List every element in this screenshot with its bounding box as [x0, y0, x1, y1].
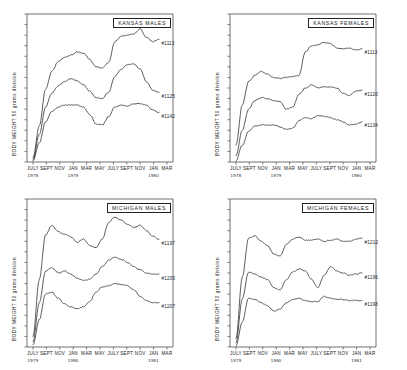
x-axis-tick-label: JAN: [149, 351, 158, 356]
x-axis-year-label: 1981: [148, 358, 159, 363]
x-axis-tick-label: JULY: [107, 351, 119, 356]
x-axis-tick-label: NOV: [338, 351, 349, 356]
x-axis-tick-label: JULY: [230, 166, 242, 171]
series-line: [33, 257, 159, 342]
x-axis-tick-label: JULY: [27, 166, 39, 171]
y-axis-label: BODY WEIGHT 50 grams division: [215, 257, 220, 341]
x-axis-year-label: 1980: [351, 173, 362, 178]
x-axis-tick-label: MAR: [284, 166, 295, 171]
y-axis-label: BODY WEIGHT 50 grams division: [12, 72, 17, 156]
x-axis-tick-label: JAN: [149, 166, 158, 171]
x-axis-tick-label: SEPT: [40, 166, 53, 171]
figure-container: #1113#1125#1142KANSAS MALESBODY WEIGHT 5…: [0, 0, 407, 370]
series-line: [236, 296, 362, 346]
x-axis-tick-label: NOV: [338, 166, 349, 171]
plot-area: [203, 0, 406, 185]
x-axis-tick-label: JAN: [352, 166, 361, 171]
chart-panel-bottom-right: #1212#1196#1198MICHIGAN FEMALESBODY WEIG…: [203, 185, 406, 370]
x-axis-tick-label: NOV: [257, 166, 268, 171]
chart-panel-top-left: #1113#1125#1142KANSAS MALESBODY WEIGHT 5…: [0, 0, 203, 185]
x-axis-tick-label: MAR: [162, 351, 173, 356]
x-axis-tick-label: MAR: [365, 351, 376, 356]
x-axis-tick-label: MAY: [95, 166, 105, 171]
x-axis-year-label: 1980: [271, 358, 282, 363]
panel-title: MICHIGAN MALES: [107, 203, 171, 213]
x-axis-year-label: 1979: [271, 173, 282, 178]
chart-panel-top-right: #1113#1120#1134KANSAS FEMALESBODY WEIGHT…: [203, 0, 406, 185]
series-line: [236, 236, 362, 339]
x-axis-year-label: 1979: [68, 173, 79, 178]
x-axis-tick-label: SEPT: [243, 166, 256, 171]
x-axis-tick-label: MAY: [298, 351, 308, 356]
panel-title: KANSAS FEMALES: [308, 18, 374, 28]
x-axis-tick-label: JULY: [310, 351, 322, 356]
series-line: [33, 103, 159, 160]
x-axis-year-label: 1978: [28, 173, 39, 178]
axis-frame: [27, 199, 173, 347]
chart-panel-inner: #1197#1205#1207MICHIGAN MALESBODY WEIGHT…: [0, 185, 203, 370]
y-axis-label: BODY WEIGHT 50 grams division: [12, 257, 17, 341]
x-axis-year-label: 1980: [148, 173, 159, 178]
y-axis-label: BODY WEIGHT 50 grams division: [215, 72, 220, 156]
plot-area: [0, 185, 203, 370]
panel-title: MICHIGAN FEMALES: [302, 203, 374, 213]
x-axis-tick-label: JULY: [107, 166, 119, 171]
panel-title: KANSAS MALES: [113, 18, 171, 28]
x-axis-year-label: 1979: [231, 358, 242, 363]
x-axis-tick-label: SEPT: [120, 351, 133, 356]
x-axis-tick-label: MAR: [284, 351, 295, 356]
series-line: [33, 283, 159, 345]
x-axis-tick-label: JAN: [68, 166, 77, 171]
chart-panel-inner: #1113#1120#1134KANSAS FEMALESBODY WEIGHT…: [203, 0, 406, 185]
x-axis-tick-label: JULY: [27, 351, 39, 356]
x-axis-year-label: 1978: [231, 173, 242, 178]
x-axis-tick-label: MAR: [81, 351, 92, 356]
x-axis-year-label: 1981: [351, 358, 362, 363]
x-axis-tick-label: SEPT: [120, 166, 133, 171]
series-line: [33, 217, 159, 336]
series-line: [236, 85, 362, 156]
axis-frame: [230, 14, 376, 162]
plot-area: [0, 0, 203, 185]
x-axis-tick-label: SEPT: [323, 166, 336, 171]
x-axis-tick-label: MAR: [81, 166, 92, 171]
x-axis-year-label: 1979: [28, 358, 39, 363]
x-axis-tick-label: NOV: [54, 351, 65, 356]
series-line: [236, 115, 362, 161]
x-axis-tick-label: MAR: [162, 166, 173, 171]
x-axis-tick-label: MAY: [298, 166, 308, 171]
x-axis-tick-label: JAN: [271, 166, 280, 171]
x-axis-tick-label: SEPT: [40, 351, 53, 356]
x-axis-tick-label: JULY: [310, 166, 322, 171]
x-axis-tick-label: SEPT: [243, 351, 256, 356]
chart-panel-inner: #1212#1196#1198MICHIGAN FEMALESBODY WEIG…: [203, 185, 406, 370]
x-axis-tick-label: JAN: [271, 351, 280, 356]
x-axis-tick-label: MAR: [365, 166, 376, 171]
x-axis-tick-label: NOV: [54, 166, 65, 171]
series-line: [236, 266, 362, 343]
x-axis-tick-label: NOV: [135, 166, 146, 171]
x-axis-tick-label: JULY: [230, 351, 242, 356]
x-axis-tick-label: NOV: [257, 351, 268, 356]
x-axis-tick-label: JAN: [352, 351, 361, 356]
x-axis-tick-label: NOV: [135, 351, 146, 356]
x-axis-tick-label: MAY: [95, 351, 105, 356]
chart-panel-inner: #1113#1125#1142KANSAS MALESBODY WEIGHT 5…: [0, 0, 203, 185]
x-axis-tick-label: JAN: [68, 351, 77, 356]
x-axis-tick-label: SEPT: [323, 351, 336, 356]
x-axis-year-label: 1980: [68, 358, 79, 363]
chart-panel-bottom-left: #1197#1205#1207MICHIGAN MALESBODY WEIGHT…: [0, 185, 203, 370]
